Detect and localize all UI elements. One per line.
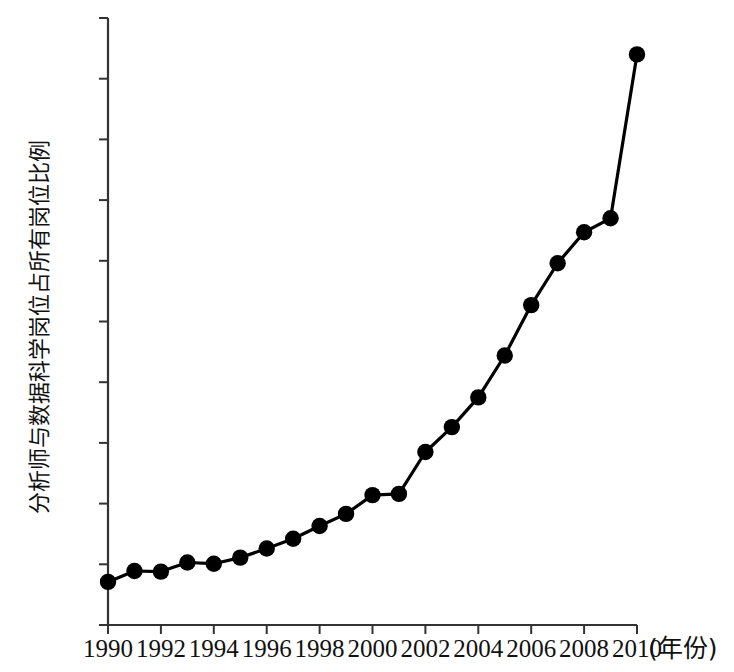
data-point-marker <box>311 518 327 534</box>
data-point-marker <box>602 210 618 226</box>
data-point-marker <box>285 531 301 547</box>
plot-area <box>0 0 734 672</box>
data-point-marker <box>364 487 380 503</box>
data-point-marker <box>629 46 645 62</box>
data-point-marker <box>470 389 486 405</box>
data-point-marker <box>232 549 248 565</box>
data-point-marker <box>259 540 275 556</box>
line-chart: 分析师与数据科学岗位占所有岗位比例 00.010.020.030.040.050… <box>0 0 734 672</box>
data-point-marker <box>206 555 222 571</box>
data-point-marker <box>497 347 513 363</box>
data-point-marker <box>100 574 116 590</box>
data-point-marker <box>417 444 433 460</box>
data-point-marker <box>576 224 592 240</box>
data-point-marker <box>179 554 195 570</box>
data-point-marker <box>153 563 169 579</box>
data-point-marker <box>523 297 539 313</box>
data-point-marker <box>338 506 354 522</box>
data-point-marker <box>549 255 565 271</box>
data-point-marker <box>126 563 142 579</box>
data-point-marker <box>444 419 460 435</box>
data-point-marker <box>391 486 407 502</box>
